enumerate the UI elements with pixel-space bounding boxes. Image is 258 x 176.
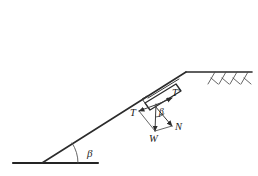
force-parallelogram-side-b [155, 126, 172, 131]
N-label: N [175, 122, 182, 133]
hatch-mark-3 [230, 72, 240, 84]
force-parallelogram-side-a [139, 111, 155, 131]
slope-angle-arc-group [72, 143, 78, 163]
T-prime-label: T′ [172, 88, 180, 99]
hatch-mark-2 [219, 72, 229, 84]
T-label: T [130, 108, 136, 119]
vector-W [155, 104, 156, 131]
beta-slope-arc [72, 143, 78, 163]
beta-slope-label: β [87, 148, 92, 159]
ground-hatching-group [208, 72, 251, 84]
beta-force-label: β [159, 108, 164, 118]
hatch-mark-1 [208, 72, 218, 84]
slope-diagram-figure: β T T′ N W β [0, 0, 258, 176]
W-label: W [149, 134, 158, 145]
diagram-canvas [0, 0, 258, 176]
slope-surface-group [42, 72, 252, 163]
hatch-mark-4 [241, 72, 251, 84]
